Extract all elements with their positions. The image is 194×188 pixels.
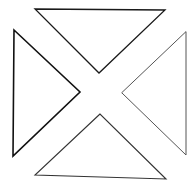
- bottom-triangle: [35, 114, 166, 179]
- top-triangle: [35, 9, 165, 73]
- right-triangle: [122, 32, 186, 155]
- four-triangles-diagram: [0, 0, 194, 188]
- left-triangle: [13, 30, 80, 156]
